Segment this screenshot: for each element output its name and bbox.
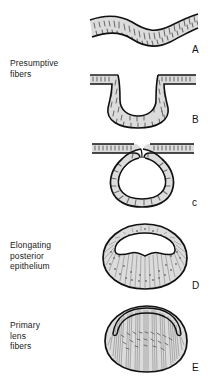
stage-d-elongating-posterior-epithelium xyxy=(95,222,200,292)
stage-b-tissue-fill xyxy=(90,75,196,128)
stage-b-pit-lumen-outline xyxy=(118,75,158,116)
label-elongating-posterior-epithelium: Elongating posterior epithelium xyxy=(10,240,51,272)
stage-e-primary-lens-fibers xyxy=(95,302,200,376)
label-primary-lens-fibers: Primary lens fibers xyxy=(10,320,40,352)
stage-c-letter: c xyxy=(192,197,197,208)
stage-b-letter: B xyxy=(192,114,199,125)
stage-e-letter: E xyxy=(192,362,199,373)
stage-c-lens-vesicle xyxy=(88,140,200,210)
stage-c-closure-seam xyxy=(141,149,142,158)
stage-d-letter: D xyxy=(192,280,199,291)
stage-a-letter: A xyxy=(192,44,199,55)
label-presumptive-fibers: Presumptive fibers xyxy=(10,58,58,79)
lens-development-figure: Presumptive fibers Elongating posterior … xyxy=(0,0,215,392)
stage-a-tissue-fill xyxy=(90,14,198,46)
stage-a-lens-placode xyxy=(88,6,200,62)
stage-b-lens-pit xyxy=(88,70,200,132)
